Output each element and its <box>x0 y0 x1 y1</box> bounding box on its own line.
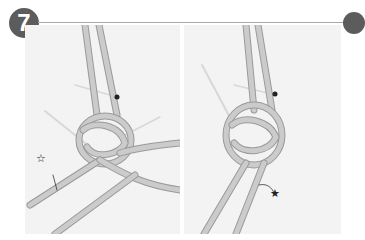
outlined-star-marker: ☆ <box>36 153 46 164</box>
rope-knot-illustration-left <box>25 25 180 234</box>
rope-knot-illustration-right <box>184 25 341 234</box>
filled-star-marker: ★ <box>270 188 280 199</box>
next-step-badge <box>343 12 365 34</box>
photo-right: ★ <box>184 25 341 234</box>
header-rule <box>38 22 343 23</box>
photo-left: ☆ <box>25 25 180 234</box>
